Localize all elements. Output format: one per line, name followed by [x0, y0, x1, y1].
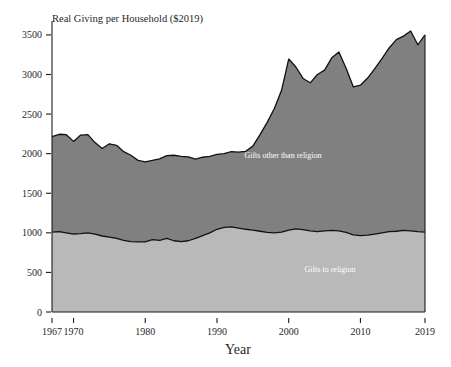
chart-title: Real Giving per Household ($2019) [52, 13, 204, 25]
y-tick-label: 500 [27, 267, 42, 278]
area-gifts-to-religion [52, 227, 425, 312]
giving-per-household-area-chart: Real Giving per Household ($2019) 050010… [0, 0, 451, 367]
series-label-other: Gifts other than religion [244, 151, 321, 160]
chart-container: Real Giving per Household ($2019) 050010… [0, 0, 451, 367]
x-tick-label: 1967 [42, 326, 62, 337]
x-tick-label: 1970 [64, 326, 84, 337]
y-tick-label: 3000 [22, 69, 42, 80]
y-tick-label: 2500 [22, 109, 42, 120]
series-label-religion: Gifts to religion [304, 265, 355, 274]
x-tick-label: 1990 [207, 326, 227, 337]
y-tick-label: 3500 [22, 29, 42, 40]
y-tick-label: 1000 [22, 227, 42, 238]
x-tick-label: 2010 [350, 326, 370, 337]
y-tick-label: 0 [37, 307, 42, 318]
x-tick-label: 1980 [135, 326, 155, 337]
y-tick-label: 1500 [22, 188, 42, 199]
x-axis-title: Year [225, 342, 251, 357]
y-tick-label: 2000 [22, 148, 42, 159]
x-tick-label: 2019 [415, 326, 435, 337]
x-tick-label: 2000 [279, 326, 299, 337]
